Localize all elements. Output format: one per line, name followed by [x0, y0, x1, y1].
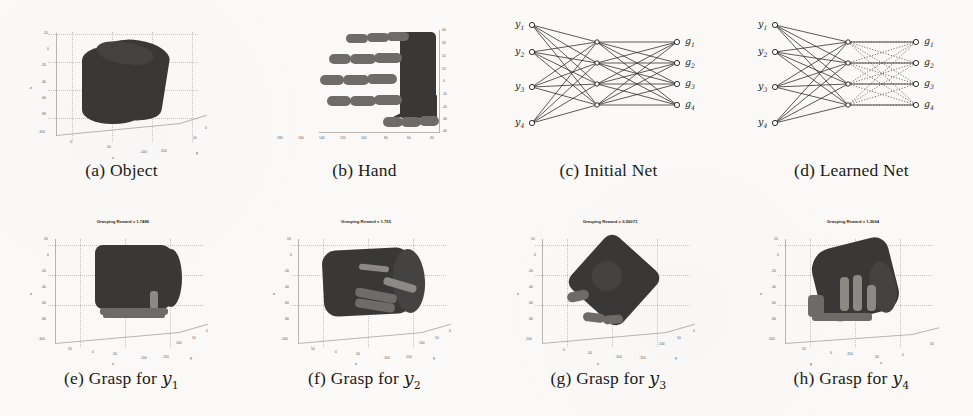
caption-h-text: Grasp for	[819, 368, 887, 388]
caption-g-var: y3	[649, 368, 666, 388]
plot-h: Grasping Reward = 1.3664 20 0 -20 -40 -6…	[730, 205, 973, 365]
caption-e: (e) Grasp for y1	[0, 368, 243, 392]
caption-a-prefix: (a)	[85, 160, 105, 180]
net-edges-left	[532, 25, 597, 123]
net-d-output-label-1: g1	[924, 35, 934, 48]
caption-h-prefix: (h)	[794, 368, 815, 388]
net-c-output-label-1: g1	[685, 35, 695, 48]
net-d-input-label-1: y1	[758, 18, 767, 31]
caption-d-text: Learned Net	[820, 160, 909, 180]
net-d-input-label-3: y3	[758, 80, 767, 93]
caption-e-var: y1	[162, 368, 179, 388]
figure-panel-grid: 20 0 -20 -40 -60 -80 -100 0 -50 -100 -15…	[0, 0, 973, 416]
caption-b-prefix: (b)	[332, 160, 353, 180]
net-c-input-label-4: y4	[515, 116, 524, 129]
caption-b-text: Hand	[358, 160, 397, 180]
caption-f-text: Grasp for	[331, 368, 399, 388]
net-edges-right-dotted	[848, 42, 916, 105]
panel-h-grasp-y4: Grasping Reward = 1.3664 20 0 -20 -40 -6…	[730, 205, 973, 416]
caption-a: (a) Object	[0, 160, 243, 181]
panel-b-hand: 40 30 20 10 0 -10 -20 -30 -40 180 160 14…	[243, 0, 486, 205]
net-d-input-label-2: y2	[758, 45, 767, 58]
plot-d: y1 y2 y3 y4 g1 g2 g3 g4	[730, 0, 973, 160]
net-c-output-label-2: g2	[685, 56, 695, 69]
net-nodes	[529, 22, 679, 125]
caption-g-prefix: (g)	[551, 368, 572, 388]
net-d-output-label-2: g2	[924, 56, 934, 69]
panel-g-grasp-y3: Grasping Reward = 0.56073 20 0 -20 -40 -…	[487, 205, 730, 416]
plot-e-title: Grasping Reward = 1.7486	[43, 219, 203, 224]
caption-c-text: Initial Net	[584, 160, 658, 180]
plot-g: Grasping Reward = 0.56073 20 0 -20 -40 -…	[487, 205, 730, 365]
plot-f: Grasping Reward = 1.755 20 0 -20 -40 -60…	[243, 205, 486, 365]
plot-c: y1 y2 y3 y4 g1 g2 g3 g4	[487, 0, 730, 160]
net-d-output-label-4: g4	[924, 98, 934, 111]
caption-f-var: y2	[404, 368, 421, 388]
caption-c-prefix: (c)	[559, 160, 579, 180]
plot-b: 40 30 20 10 0 -10 -20 -30 -40 180 160 14…	[243, 0, 486, 160]
caption-c: (c) Initial Net	[487, 160, 730, 181]
plot-a: 20 0 -20 -40 -60 -80 -100 0 -50 -100 -15…	[0, 0, 243, 160]
caption-h-var: y4	[892, 368, 909, 388]
net-edges-right	[597, 42, 677, 105]
caption-g-text: Grasp for	[576, 368, 644, 388]
plot-g-title: Grasping Reward = 0.56073	[530, 219, 690, 224]
caption-h: (h) Grasp for y4	[730, 368, 973, 392]
plot-e: Grasping Reward = 1.7486 20 0 -20 -40 -6…	[0, 205, 243, 365]
caption-d: (d) Learned Net	[730, 160, 973, 181]
net-d-input-label-4: y4	[758, 116, 767, 129]
caption-e-prefix: (e)	[64, 368, 84, 388]
caption-f-prefix: (f)	[308, 368, 326, 388]
caption-f: (f) Grasp for y2	[243, 368, 486, 392]
net-c-output-label-4: g4	[685, 98, 695, 111]
net-nodes	[772, 22, 918, 125]
caption-b: (b) Hand	[243, 160, 486, 181]
caption-e-text: Grasp for	[89, 368, 157, 388]
panel-f-grasp-y2: Grasping Reward = 1.755 20 0 -20 -40 -60…	[243, 205, 486, 416]
panel-d-learned-net: y1 y2 y3 y4 g1 g2 g3 g4 (d) Learned Net	[730, 0, 973, 205]
net-c-output-label-3: g3	[685, 77, 695, 90]
net-d-output-label-3: g3	[924, 77, 934, 90]
plot-f-title: Grasping Reward = 1.755	[286, 219, 446, 224]
net-edges-left	[775, 25, 848, 123]
caption-d-prefix: (d)	[794, 160, 815, 180]
net-c-input-label-1: y1	[515, 18, 524, 31]
net-c-input-label-3: y3	[515, 80, 524, 93]
panel-c-initial-net: y1 y2 y3 y4 g1 g2 g3 g4 (c) Initial Net	[487, 0, 730, 205]
caption-g: (g) Grasp for y3	[487, 368, 730, 392]
net-c-input-label-2: y2	[515, 45, 524, 58]
plot-h-title: Grasping Reward = 1.3664	[773, 219, 933, 224]
caption-a-text: Object	[110, 160, 158, 180]
panel-e-grasp-y1: Grasping Reward = 1.7486 20 0 -20 -40 -6…	[0, 205, 243, 416]
panel-a-object: 20 0 -20 -40 -60 -80 -100 0 -50 -100 -15…	[0, 0, 243, 205]
